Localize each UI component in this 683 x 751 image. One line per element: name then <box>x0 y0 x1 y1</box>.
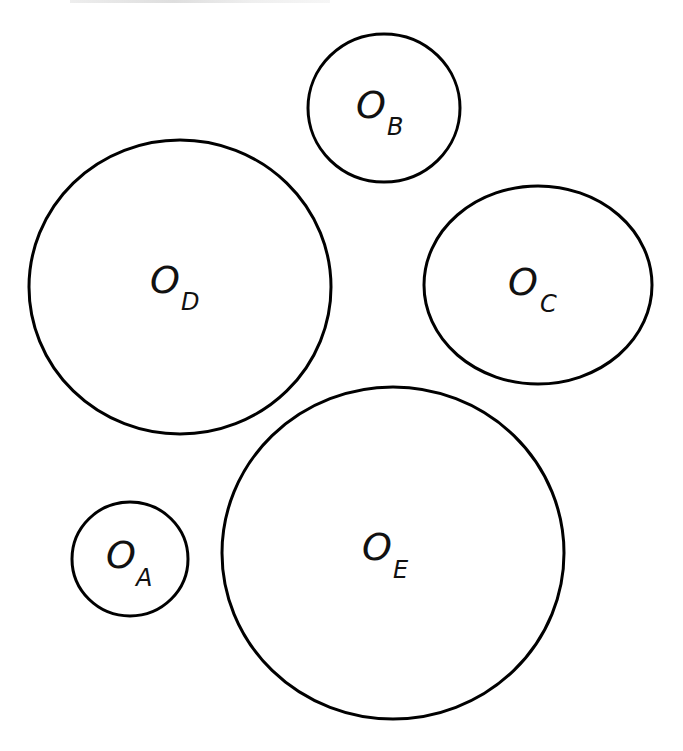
circle-B: O B <box>308 34 460 182</box>
circle-label-main: O <box>106 533 136 577</box>
circles-diagram: O B O D O C O E O A <box>0 0 683 751</box>
circle-label-main: O <box>356 83 386 127</box>
circle-label-sub: C <box>540 290 557 318</box>
circle-D: O D <box>29 140 331 434</box>
circle-label-main: O <box>150 258 180 302</box>
circle-E: O E <box>222 387 564 719</box>
circle-outline <box>29 140 331 434</box>
circle-C: O C <box>424 186 652 384</box>
circle-label-sub: A <box>134 564 152 592</box>
circle-label-main: O <box>508 260 538 304</box>
circle-label-sub: E <box>393 556 409 584</box>
circle-label-main: O <box>362 525 392 569</box>
circle-A: O A <box>72 502 188 616</box>
circle-outline <box>222 387 564 719</box>
circle-label-sub: B <box>387 113 403 141</box>
circle-outline <box>424 186 652 384</box>
circle-label-sub: D <box>181 288 199 316</box>
